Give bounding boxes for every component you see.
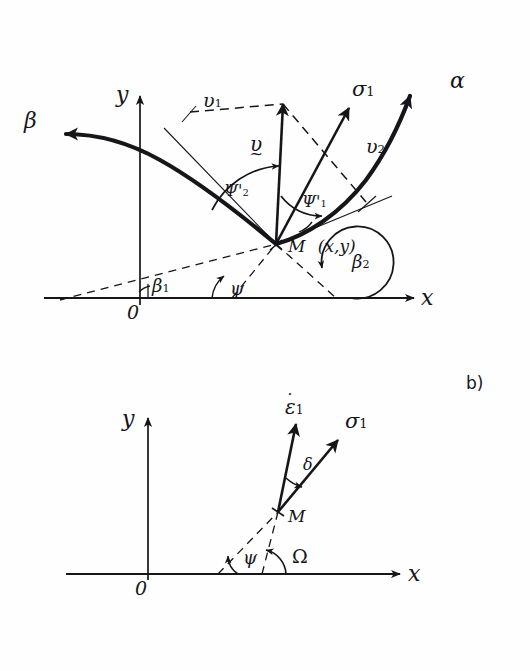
panel-b-omega-arc	[266, 550, 286, 574]
panel-b-omega-label: Ω	[292, 547, 308, 566]
strain-rate-label: ε · 1	[285, 397, 304, 417]
velocity-resultant-label: υ ~	[250, 134, 262, 154]
beta-2-label: β2	[352, 253, 370, 271]
velocity-component-2-label: υ2	[366, 137, 385, 156]
panel-b-omega-reference-line	[262, 512, 278, 574]
panel-b-psi-label: ψ	[243, 549, 257, 567]
psi-prime-1-label: Ψ'1	[302, 194, 327, 210]
v1-corner-tick	[182, 106, 196, 122]
principal-stress-vector	[276, 108, 349, 244]
panel-a-x-axis-label: x	[421, 287, 433, 309]
panel-a-point-coords: (x,y)	[318, 236, 356, 256]
panel-b-principal-stress-vector	[278, 440, 338, 512]
velocity-component-1-label: υ1	[203, 91, 222, 110]
panel-tag-b: b)	[466, 375, 483, 392]
panel-b-origin-label: 0	[135, 579, 147, 598]
panel-a-principal-stress-label: σ1	[352, 79, 375, 100]
panel-b-principal-stress-label: σ1	[345, 411, 368, 432]
psi-arc	[212, 276, 224, 298]
panel-a-y-axis-label: y	[116, 84, 128, 106]
psi-prime-2-label: Ψ'2	[224, 183, 249, 199]
panel-b-x-axis-label: x	[408, 563, 420, 585]
beta-characteristic-label: β	[24, 110, 37, 132]
panel-a-psi-label: ψ	[230, 280, 244, 298]
panel-a-point-label: M	[288, 236, 305, 256]
beta-1-label: β1	[152, 277, 170, 295]
panel-a	[44, 96, 414, 305]
alpha-characteristic-label: α	[450, 70, 465, 92]
panel-b-point-label: M	[288, 508, 305, 525]
velocity-resultant-vector	[276, 104, 283, 244]
figure-canvas	[0, 0, 530, 671]
panel-a-origin-label: 0	[127, 303, 139, 322]
delta-label: δ	[303, 457, 313, 473]
velocity-component-2-dashed	[283, 104, 366, 202]
delta-arc	[286, 478, 302, 487]
strain-rate-vector	[278, 424, 296, 512]
panel-b	[66, 418, 400, 580]
panel-b-y-axis-label: y	[122, 408, 134, 430]
